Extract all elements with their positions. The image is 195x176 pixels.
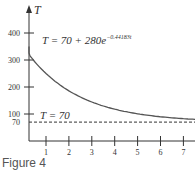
asymptote-label: T = 70 — [40, 109, 70, 121]
x-tick-label: 2 — [67, 148, 71, 157]
y-tick-label: 300 — [8, 56, 20, 65]
y-axis-label: T — [34, 3, 42, 17]
y-tick-label: 400 — [8, 29, 20, 38]
x-tick-label: 5 — [136, 148, 140, 157]
y-axis-arrow-icon — [26, 5, 32, 13]
y-tick-label: 200 — [8, 83, 20, 92]
y-tick-label: 70 — [12, 118, 20, 127]
x-tick-label: 6 — [159, 148, 163, 157]
figure-caption: Figure 4 — [2, 156, 46, 170]
x-tick-label: 3 — [90, 148, 94, 157]
chart: T123456740030020010070 T = 70 + 280e−0.4… — [0, 0, 195, 176]
x-tick-label: 7 — [181, 148, 185, 157]
x-tick-label: 4 — [113, 148, 117, 157]
equation-label: T = 70 + 280e−0.44183t — [42, 34, 132, 46]
